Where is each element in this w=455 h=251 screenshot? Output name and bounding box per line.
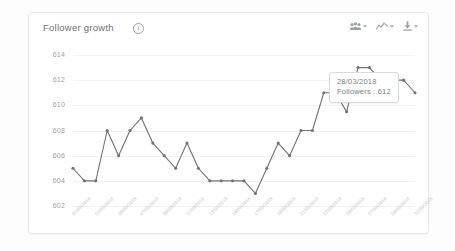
- data-point-marker[interactable]: [71, 167, 74, 170]
- data-point-marker[interactable]: [117, 154, 120, 157]
- data-point-marker[interactable]: [356, 66, 359, 69]
- data-point-marker[interactable]: [322, 91, 325, 94]
- people-group-icon: [350, 22, 361, 31]
- data-point-marker[interactable]: [413, 91, 416, 94]
- screen-root: Follower growth i: [0, 0, 455, 251]
- chart-toolbar: [350, 21, 418, 31]
- data-point-marker[interactable]: [345, 110, 348, 113]
- chevron-down-icon: [390, 25, 394, 28]
- data-point-marker[interactable]: [163, 154, 166, 157]
- data-point-marker[interactable]: [83, 179, 86, 182]
- download-icon: [403, 21, 412, 31]
- data-point-marker[interactable]: [197, 167, 200, 170]
- data-point-marker[interactable]: [94, 179, 97, 182]
- chevron-down-icon: [363, 25, 367, 28]
- page-title: Follower growth: [43, 22, 114, 33]
- data-point-marker[interactable]: [174, 167, 177, 170]
- data-point-marker[interactable]: [402, 79, 405, 82]
- data-point-marker[interactable]: [288, 154, 291, 157]
- download-button[interactable]: [403, 21, 418, 31]
- line-chart-icon: [376, 22, 388, 31]
- data-point-marker[interactable]: [368, 66, 371, 69]
- data-point-marker[interactable]: [277, 142, 280, 145]
- data-point-marker[interactable]: [220, 179, 223, 182]
- data-point-marker[interactable]: [208, 179, 211, 182]
- follower-growth-card: Follower growth i: [28, 12, 429, 234]
- info-icon[interactable]: i: [133, 23, 144, 34]
- data-point-marker[interactable]: [242, 179, 245, 182]
- chart-type-button[interactable]: [376, 22, 394, 31]
- data-point-marker[interactable]: [185, 142, 188, 145]
- data-point-marker[interactable]: [265, 167, 268, 170]
- data-point-marker[interactable]: [299, 129, 302, 132]
- data-point-marker[interactable]: [231, 179, 234, 182]
- data-point-marker[interactable]: [151, 142, 154, 145]
- data-point-marker[interactable]: [106, 129, 109, 132]
- chart-tooltip: 28/03/2018 Followers : 612: [329, 72, 399, 103]
- tooltip-value: Followers : 612: [337, 87, 391, 97]
- card-header: Follower growth i: [29, 13, 428, 45]
- data-point-marker[interactable]: [254, 192, 257, 195]
- tooltip-date: 28/03/2018: [337, 77, 391, 87]
- chart-plot-area[interactable]: 602604606608610612614 01/03/201803/03/20…: [29, 43, 428, 233]
- data-point-marker[interactable]: [128, 129, 131, 132]
- chevron-down-icon: [414, 25, 418, 28]
- audience-selector-button[interactable]: [350, 22, 367, 31]
- data-point-marker[interactable]: [311, 129, 314, 132]
- data-point-marker[interactable]: [140, 116, 143, 119]
